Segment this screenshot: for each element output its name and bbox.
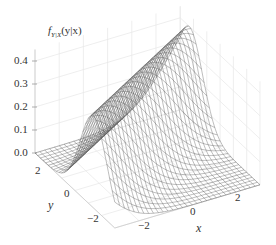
x-tick-0: −2 [138,220,150,231]
x-tick-1: 0 [190,206,196,217]
z-tick-3: 0.3 [14,78,28,89]
z-tick-2: 0.2 [14,101,28,112]
x-axis-title: x [196,222,201,234]
x-tick-2: 2 [235,192,241,203]
z-axis-title-sub: Y|X [51,31,61,39]
z-axis-title: fY|X(y|x) [48,25,82,39]
y-tick-2: −2 [87,213,99,224]
y-axis-title: y [48,199,53,211]
z-axis-title-args: (y|x) [61,24,82,36]
surface-plot [0,0,276,245]
z-tick-0: 0.0 [14,147,28,158]
z-tick-1: 0.1 [14,124,28,135]
z-tick-4: 0.4 [14,55,28,66]
y-tick-1: 0 [64,188,70,199]
axes-lines [32,50,260,229]
y-tick-0: 2 [35,165,41,176]
